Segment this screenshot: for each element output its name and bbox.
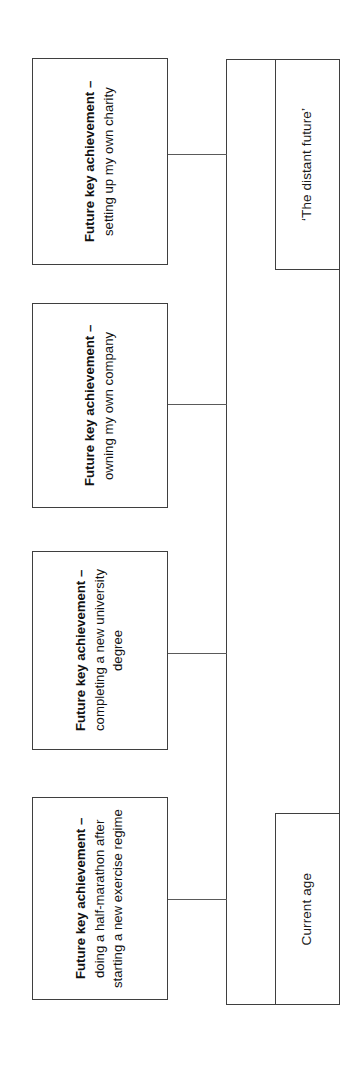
timeline-start-label-box: Current age (275, 813, 340, 1005)
connector-line-event-2 (168, 404, 227, 405)
event-box-company: Future key achievement – owning my own c… (32, 303, 168, 508)
event-heading-half-marathon: Future key achievement – (73, 818, 88, 979)
event-heading-degree: Future key achievement – (73, 570, 88, 731)
event-detail-degree: completing a new university degree (92, 570, 126, 732)
event-box-half-marathon: Future key achievement – doing a half-ma… (32, 797, 168, 1000)
event-heading-company: Future key achievement – (82, 325, 97, 486)
event-box-degree: Future key achievement – completing a ne… (32, 551, 168, 750)
connector-line-event-4 (168, 899, 227, 900)
diagram-canvas: ‘The distant future’ Current age Future … (0, 0, 360, 1071)
connector-line-event-1 (168, 154, 227, 155)
event-text-company: Future key achievement – owning my own c… (81, 308, 118, 503)
timeline-start-label-text: Current age (299, 873, 316, 945)
timeline-end-label-text: ‘The distant future’ (299, 108, 316, 221)
event-detail-half-marathon: doing a half-marathon after starting a n… (92, 809, 126, 988)
event-detail-charity: setting up my own charity (101, 87, 116, 236)
event-box-charity: Future key achievement – setting up my o… (32, 58, 168, 265)
connector-line-event-3 (168, 653, 227, 654)
event-text-half-marathon: Future key achievement – doing a half-ma… (72, 802, 128, 995)
event-detail-company: owning my own company (101, 331, 116, 479)
event-text-charity: Future key achievement – setting up my o… (81, 63, 118, 260)
event-text-degree: Future key achievement – completing a ne… (72, 556, 128, 745)
event-heading-charity: Future key achievement – (82, 81, 97, 242)
timeline-end-label-box: ‘The distant future’ (275, 59, 340, 270)
